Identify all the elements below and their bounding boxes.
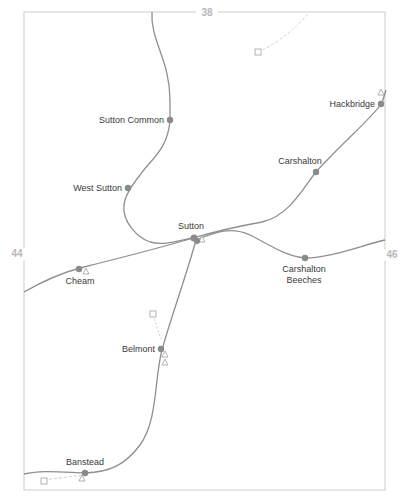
station-label: Carshalton bbox=[278, 156, 322, 166]
station-dot bbox=[158, 346, 164, 352]
station-label: West Sutton bbox=[73, 183, 122, 193]
triangle-marker-cheam bbox=[83, 268, 89, 274]
dashed-link-banstead bbox=[44, 475, 84, 480]
station-label: Banstead bbox=[66, 457, 104, 467]
triangle-marker-belmont-1 bbox=[162, 351, 168, 357]
square-marker-top bbox=[255, 49, 261, 55]
station-label: Belmont bbox=[122, 344, 156, 354]
grid-label-right: 46 bbox=[386, 249, 398, 260]
station-label: Hackbridge bbox=[329, 99, 375, 109]
dashed-link-top bbox=[258, 14, 308, 52]
grid-label-top: 38 bbox=[201, 7, 213, 18]
square-marker-banstead bbox=[41, 478, 47, 484]
station-sutton-common[interactable]: Sutton Common bbox=[99, 115, 173, 125]
station-belmont[interactable]: Belmont bbox=[122, 344, 164, 354]
station-label: Sutton Common bbox=[99, 115, 164, 125]
station-label: Cheam bbox=[65, 276, 94, 286]
triangle-marker-hackbridge bbox=[378, 89, 384, 95]
triangle-marker-belmont-2 bbox=[162, 359, 168, 365]
map-frame bbox=[24, 12, 385, 490]
station-dot bbox=[313, 169, 319, 175]
station-banstead[interactable]: Banstead bbox=[66, 457, 104, 476]
station-dot bbox=[76, 266, 82, 272]
station-label-line1: Carshalton bbox=[282, 264, 326, 274]
station-dot bbox=[378, 101, 384, 107]
station-cheam[interactable]: Cheam bbox=[65, 266, 94, 286]
rail-map[interactable]: 38 44 46 Hackbridge Sutton Common Carsha… bbox=[0, 0, 408, 501]
station-carshalton-beeches[interactable]: Carshalton Beeches bbox=[282, 255, 326, 285]
rail-line-sutton-common bbox=[124, 12, 193, 243]
station-dot bbox=[82, 470, 88, 476]
grid-label-left: 44 bbox=[11, 248, 23, 259]
rail-line-belmont bbox=[24, 240, 196, 474]
station-label: Sutton bbox=[178, 221, 204, 231]
square-marker-belmont bbox=[150, 311, 156, 317]
station-dot bbox=[125, 185, 131, 191]
station-dot bbox=[167, 117, 173, 123]
station-carshalton[interactable]: Carshalton bbox=[278, 156, 322, 175]
station-label-line2: Beeches bbox=[286, 275, 322, 285]
dashed-link-belmont bbox=[153, 315, 161, 339]
station-dot bbox=[302, 255, 308, 261]
station-hackbridge[interactable]: Hackbridge bbox=[329, 99, 384, 109]
rail-line-carshalton-beeches bbox=[196, 231, 385, 258]
station-west-sutton[interactable]: West Sutton bbox=[73, 183, 131, 193]
